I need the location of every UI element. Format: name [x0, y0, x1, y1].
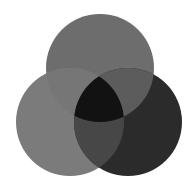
venn-svg [0, 0, 194, 186]
venn-diagram [0, 0, 194, 186]
